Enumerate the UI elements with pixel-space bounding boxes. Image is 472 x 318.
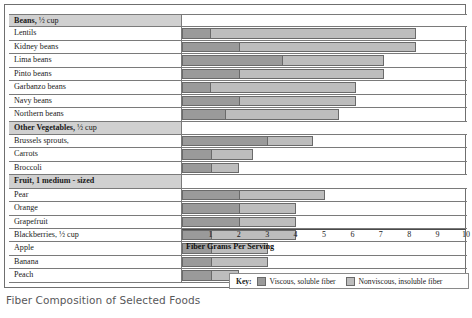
- row-plot-cell: [182, 41, 467, 53]
- bar-segment-insoluble: [239, 42, 416, 52]
- chart-row: Broccoli: [9, 162, 467, 175]
- chart-rows: Beans, ½ cupLentilsKidney beansLima bean…: [9, 14, 467, 229]
- legend-swatch-soluble-icon: [257, 277, 266, 286]
- row-plot-cell: [182, 162, 467, 174]
- stacked-bar: [182, 28, 416, 38]
- chart-row: Navy beans: [9, 95, 467, 108]
- row-label: Navy beans: [9, 95, 182, 107]
- bar-segment-insoluble: [282, 55, 385, 65]
- x-tick-label: 10: [462, 230, 470, 240]
- bar-segment-insoluble: [210, 82, 355, 92]
- chart-row: Grapefruit: [9, 216, 467, 229]
- row-plot-cell: [182, 95, 467, 107]
- row-plot-cell: [182, 68, 467, 80]
- chart-legend: Key: Viscous, soluble fiber Nonviscous, …: [229, 273, 469, 289]
- stacked-bar: [182, 42, 416, 52]
- bar-segment-soluble: [182, 149, 211, 159]
- chart-row: Kidney beans: [9, 41, 467, 54]
- group-header-row: Other Vegetables, ½ cup: [9, 122, 467, 135]
- stacked-bar: [182, 55, 384, 65]
- row-label: Orange: [9, 202, 182, 214]
- bar-segment-insoluble: [239, 96, 356, 106]
- row-plot-cell: [182, 148, 467, 160]
- legend-label-soluble: Viscous, soluble fiber: [270, 277, 336, 286]
- x-tick-label: 5: [322, 230, 326, 240]
- bar-segment-insoluble: [239, 190, 325, 200]
- stacked-bar: [182, 163, 239, 173]
- chart-row: Lima beans: [9, 54, 467, 67]
- chart-row: Pear: [9, 189, 467, 202]
- chart-plot-area: Beans, ½ cupLentilsKidney beansLima bean…: [9, 14, 467, 229]
- row-label: Peach: [9, 269, 182, 281]
- x-tick-label: 7: [379, 230, 383, 240]
- bar-segment-soluble: [182, 163, 211, 173]
- bar-segment-soluble: [182, 28, 210, 38]
- legend-item-insoluble: Nonviscous, insoluble fiber: [346, 277, 443, 286]
- stacked-bar: [182, 190, 325, 200]
- bar-segment-soluble: [182, 109, 225, 119]
- bar-segment-soluble: [182, 203, 239, 213]
- stacked-bar: [182, 69, 384, 79]
- bar-segment-insoluble: [239, 217, 296, 227]
- row-plot-cell: [182, 135, 467, 147]
- stacked-bar: [182, 82, 356, 92]
- chart-row: Brussels sprouts,: [9, 135, 467, 148]
- group-header-label: Beans, ½ cup: [9, 15, 182, 26]
- bar-segment-soluble: [182, 55, 282, 65]
- row-label: Northern beans: [9, 108, 182, 120]
- bar-segment-soluble: [182, 82, 210, 92]
- x-tick-label: 4: [294, 230, 298, 240]
- group-header-label: Other Vegetables, ½ cup: [9, 122, 182, 134]
- chart-row: Pinto beans: [9, 68, 467, 81]
- row-label: Pear: [9, 189, 182, 201]
- row-label: Broccoli: [9, 162, 182, 174]
- row-plot-cell: [182, 108, 467, 120]
- group-header-plot-cell: [182, 122, 467, 134]
- stacked-bar: [182, 203, 296, 213]
- legend-label-insoluble: Nonviscous, insoluble fiber: [359, 277, 443, 286]
- figure-caption: Fiber Composition of Selected Foods: [6, 294, 200, 306]
- x-tick-label: 2: [237, 230, 241, 240]
- bar-segment-soluble: [182, 217, 239, 227]
- row-plot-cell: [182, 189, 467, 201]
- bar-segment-soluble: [182, 270, 211, 280]
- bar-segment-soluble: [182, 190, 239, 200]
- group-header-label: Fruit, 1 medium - sized: [9, 175, 182, 187]
- bar-segment-soluble: [182, 136, 267, 146]
- chart-page: Beans, ½ cupLentilsKidney beansLima bean…: [0, 0, 472, 318]
- stacked-bar: [182, 136, 313, 146]
- stacked-bar: [182, 217, 296, 227]
- row-plot-cell: [182, 81, 467, 93]
- x-tick-label: 3: [265, 230, 269, 240]
- row-label: Brussels sprouts,: [9, 135, 182, 147]
- x-tick-label: 8: [407, 230, 411, 240]
- group-header-plot-cell: [182, 15, 467, 26]
- group-header-row: Beans, ½ cup: [9, 14, 467, 27]
- legend-item-soluble: Viscous, soluble fiber: [257, 277, 336, 286]
- x-tick-label: 9: [436, 230, 440, 240]
- row-plot-cell: [182, 27, 467, 39]
- bar-segment-insoluble: [239, 69, 384, 79]
- row-label: Kidney beans: [9, 41, 182, 53]
- stacked-bar: [182, 109, 339, 119]
- row-label: Pinto beans: [9, 68, 182, 80]
- row-label: Grapefruit: [9, 216, 182, 228]
- x-tick-label: 1: [208, 230, 212, 240]
- bar-segment-insoluble: [210, 28, 415, 38]
- bar-segment-soluble: [182, 69, 239, 79]
- row-label: Lentils: [9, 27, 182, 39]
- bar-segment-insoluble: [211, 163, 240, 173]
- bar-segment-soluble: [182, 42, 239, 52]
- x-axis-title: Fiber Grams Per Serving: [186, 242, 274, 251]
- row-plot-cell: [182, 202, 467, 214]
- stacked-bar: [182, 149, 253, 159]
- chart-row: Orange: [9, 202, 467, 215]
- chart-row: Northern beans: [9, 108, 467, 121]
- group-header-row: Fruit, 1 medium - sized: [9, 175, 467, 188]
- row-label: Lima beans: [9, 54, 182, 66]
- chart-row: Garbanzo beans: [9, 81, 467, 94]
- row-label: Garbanzo beans: [9, 81, 182, 93]
- row-plot-cell: [182, 54, 467, 66]
- x-tick-label: 6: [350, 230, 354, 240]
- group-header-plot-cell: [182, 175, 467, 187]
